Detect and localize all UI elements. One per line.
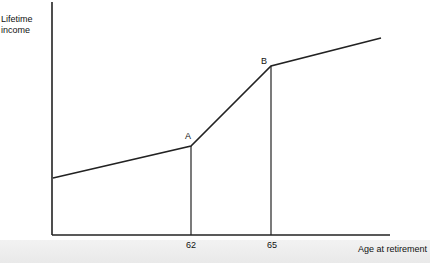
chart-plot (0, 0, 430, 263)
point-a-label: A (185, 131, 191, 142)
x-axis-label: Age at retirement (358, 244, 427, 255)
point-b-label: B (261, 56, 267, 67)
y-axis-label-line2: income (1, 25, 30, 36)
y-axis-label-line1: Lifetime (1, 14, 33, 25)
x-tick-65: 65 (267, 240, 277, 251)
x-tick-62: 62 (186, 240, 196, 251)
income-line (53, 38, 381, 178)
